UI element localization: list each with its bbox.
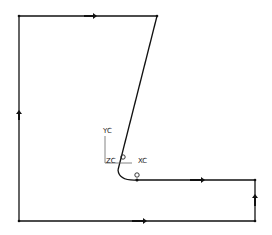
- circle-marker-2[interactable]: [135, 173, 139, 177]
- arrowhead-right-icon: [252, 194, 258, 198]
- sketch-drawing: YC ZC XC: [0, 0, 272, 235]
- x-axis-label: XC: [138, 157, 147, 165]
- arrowhead-left-icon: [16, 110, 22, 114]
- y-axis-label: YC: [102, 127, 112, 135]
- arrowhead-bottom-icon: [143, 218, 147, 224]
- z-axis-label: ZC: [106, 157, 116, 165]
- arrowhead-top-icon: [93, 13, 97, 19]
- segment-fillet[interactable]: [118, 170, 137, 180]
- arrowhead-mid-icon: [201, 177, 205, 183]
- cad-sketch-canvas[interactable]: YC ZC XC: [0, 0, 272, 235]
- segment-slant[interactable]: [118, 16, 157, 170]
